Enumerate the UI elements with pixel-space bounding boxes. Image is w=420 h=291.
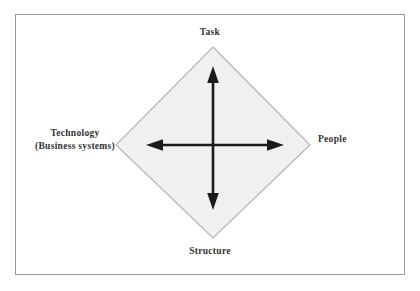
vertex-label-people: People (318, 133, 390, 146)
vertex-label-technology: Technology (Business systems) (22, 127, 128, 153)
vertex-label-technology-line2: (Business systems) (22, 140, 128, 153)
vertex-label-structure: Structure (0, 245, 420, 258)
diagram-page: Task People Structure Technology (Busine… (0, 0, 420, 291)
vertex-label-task: Task (0, 26, 420, 39)
vertex-label-technology-line1: Technology (22, 127, 128, 140)
